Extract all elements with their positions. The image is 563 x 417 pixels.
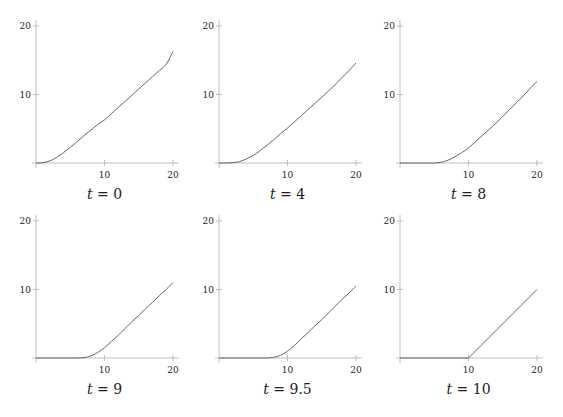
y-tick-label: 10 [20, 90, 32, 100]
panel-caption: t = 9.5 [263, 381, 312, 397]
curve [219, 63, 356, 163]
curve [36, 51, 173, 163]
x-tick-label: 20 [531, 365, 543, 375]
y-tick-label: 20 [203, 21, 215, 31]
caption-equals: = [457, 186, 478, 202]
panel-t8: 10201020t = 8 [384, 20, 543, 202]
caption-value: 8 [477, 186, 486, 202]
caption-value: 4 [296, 186, 305, 202]
x-tick-label: 10 [463, 365, 475, 375]
panel-t9: 10201020t = 9 [20, 215, 179, 397]
caption-value: 9.5 [290, 381, 312, 397]
caption-value: 9 [113, 381, 122, 397]
curve [400, 290, 537, 359]
x-tick-label: 10 [282, 365, 294, 375]
panel-caption: t = 0 [87, 186, 122, 202]
curve [36, 283, 173, 358]
caption-equals: = [269, 381, 290, 397]
y-tick-label: 20 [384, 21, 396, 31]
x-tick-label: 10 [99, 365, 111, 375]
panel-t9-5: 10201020t = 9.5 [203, 215, 362, 397]
y-tick-label: 10 [20, 285, 32, 295]
curve [400, 81, 537, 163]
x-tick-label: 20 [167, 365, 179, 375]
y-tick-label: 20 [20, 216, 32, 226]
x-tick-label: 20 [531, 170, 543, 180]
y-tick-label: 20 [384, 216, 396, 226]
y-tick-label: 10 [203, 285, 215, 295]
y-tick-label: 10 [203, 90, 215, 100]
panel-t0: 10201020t = 0 [20, 20, 179, 202]
panel-caption: t = 4 [270, 186, 305, 202]
panel-t10: 10201020t = 10 [384, 215, 543, 397]
y-tick-label: 10 [384, 285, 396, 295]
caption-value: 10 [473, 381, 491, 397]
panel-caption: t = 10 [446, 381, 490, 397]
panel-t4: 10201020t = 4 [203, 20, 362, 202]
x-tick-label: 20 [350, 170, 362, 180]
x-tick-label: 20 [350, 365, 362, 375]
x-tick-label: 20 [167, 170, 179, 180]
caption-value: 0 [113, 186, 122, 202]
y-tick-label: 20 [203, 216, 215, 226]
caption-equals: = [276, 186, 297, 202]
x-tick-label: 10 [99, 170, 111, 180]
curve [219, 286, 356, 358]
y-tick-label: 20 [20, 21, 32, 31]
caption-equals: = [452, 381, 473, 397]
panel-caption: t = 9 [87, 381, 122, 397]
figure: 10201020t = 0 10201020t = 4 10201020t = … [0, 0, 563, 417]
caption-equals: = [93, 186, 114, 202]
caption-equals: = [93, 381, 114, 397]
panel-caption: t = 8 [451, 186, 486, 202]
y-tick-label: 10 [384, 90, 396, 100]
x-tick-label: 10 [463, 170, 475, 180]
x-tick-label: 10 [282, 170, 294, 180]
